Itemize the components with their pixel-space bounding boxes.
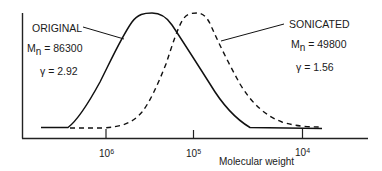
sonicated-label: SONICATED [289,19,349,30]
x-tick-label-1e4: 104 [295,148,310,158]
x-axis-label: Molecular weight [219,157,294,167]
tick-exp: 4 [306,147,310,154]
series-sonicated-curve [70,13,322,128]
sonicated-gamma: γ = 1.56 [296,62,334,73]
original-mn-value: = 86300 [44,42,82,54]
sonicated-mn: Mn = 49800 [291,39,346,50]
x-tick-label-1e6: 106 [99,149,114,159]
sonicated-mn-value: = 49800 [308,38,346,50]
original-mn-sub: n [36,46,42,57]
tick-exp: 6 [110,148,114,155]
tick-base: 10 [186,148,197,159]
original-leader-line [83,27,124,39]
sonicated-mn-sub: n [300,42,306,53]
sonicated-mn-prefix: M [291,38,300,50]
original-label: ORIGINAL [32,23,82,34]
original-gamma: γ = 2.92 [40,66,78,77]
tick-base: 10 [99,148,110,159]
original-mn-prefix: M [27,42,36,54]
tick-base: 10 [295,147,306,158]
tick-exp: 5 [197,148,201,155]
original-mn: Mn = 86300 [27,43,82,54]
series-original-curve [41,13,322,129]
x-tick-label-1e5: 105 [186,149,201,159]
sonicated-leader-line [221,24,284,41]
